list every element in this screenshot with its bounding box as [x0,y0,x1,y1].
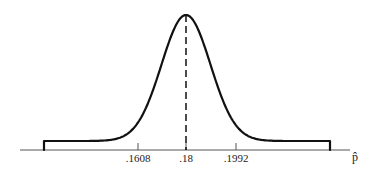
tick-label-1608: .1608 [126,152,151,164]
normal-curve-chart [0,0,376,175]
tick-label-18: .18 [179,152,193,164]
normal-curve [44,15,330,150]
tick-label-1992: .1992 [224,152,249,164]
x-axis-variable-label: p̂ [352,150,358,165]
